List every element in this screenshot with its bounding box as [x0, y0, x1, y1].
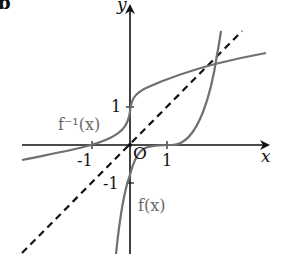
y-axis-label: y: [117, 0, 127, 14]
origin-point: [128, 143, 132, 147]
x-tick-label-neg1: -1: [77, 151, 93, 170]
identity-line: [22, 31, 242, 253]
corner-label: b: [0, 0, 11, 13]
y-tick-label-neg1: -1: [103, 174, 119, 193]
x-axis-label: x: [261, 146, 271, 166]
function-inverse-diagram: [0, 0, 287, 254]
inverse-function-label: f⁻¹(x): [58, 115, 100, 134]
y-tick-label-1: 1: [111, 97, 121, 116]
origin-label: O: [133, 143, 147, 163]
function-curve: [116, 31, 221, 254]
function-label: f(x): [138, 196, 165, 215]
x-tick-label-1: 1: [162, 151, 172, 170]
